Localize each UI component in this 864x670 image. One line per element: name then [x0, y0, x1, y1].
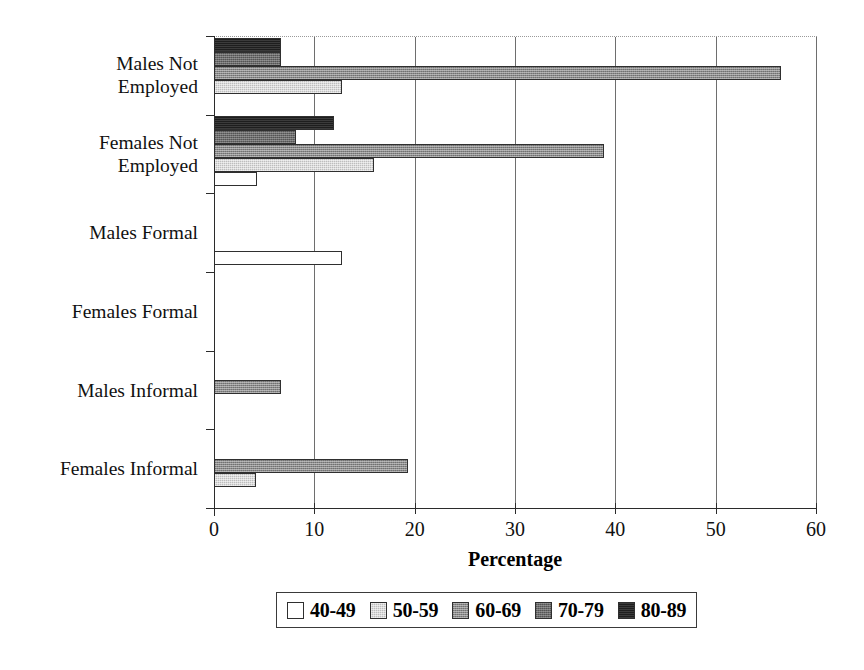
y-tick-6: [206, 508, 215, 509]
x-tick-label-40: 40: [585, 518, 645, 541]
chart-legend: 40-4950-5960-6970-7980-89: [276, 592, 697, 628]
y-tick-0: [206, 36, 215, 37]
bar: [214, 52, 281, 66]
bar: [214, 66, 781, 80]
legend-label: 60-69: [475, 599, 521, 622]
x-axis-title: Percentage: [214, 548, 816, 571]
legend-label: 80-89: [641, 599, 687, 622]
y-tick-5: [206, 429, 215, 430]
category-label-line: Employed: [18, 154, 198, 177]
category-label-line: Males Informal: [18, 379, 198, 402]
legend-swatch-icon-60-69: [452, 602, 469, 619]
bar: [214, 172, 257, 186]
x-tick-label-20: 20: [385, 518, 445, 541]
x-tick-label-0: 0: [184, 518, 244, 541]
y-axis-line: [214, 36, 215, 516]
legend-label: 40-49: [310, 599, 356, 622]
legend-swatch-icon-80-89: [618, 602, 635, 619]
bar: [214, 38, 281, 52]
bar: [214, 380, 281, 394]
x-tick-label-60: 60: [786, 518, 846, 541]
bar: [214, 251, 342, 265]
gridline-x-30: [515, 37, 516, 509]
category-label-line: Males Formal: [18, 221, 198, 244]
bar: [214, 80, 342, 94]
category-axis-labels: Males NotEmployedFemales NotEmployedMale…: [18, 36, 206, 508]
legend-swatch-icon-40-49: [287, 602, 304, 619]
x-tick-60: [816, 503, 817, 514]
category-label-line: Females Not: [18, 131, 198, 154]
y-tick-3: [206, 272, 215, 273]
bar-chart: Males NotEmployedFemales NotEmployedMale…: [0, 0, 864, 670]
category-label-males-not-employed: Males NotEmployed: [18, 52, 198, 98]
x-tick-40: [615, 503, 616, 514]
legend-label: 50-59: [393, 599, 439, 622]
plot-area: [214, 36, 817, 509]
legend-item-40-49: 40-49: [287, 599, 356, 622]
legend-item-80-89: 80-89: [618, 599, 687, 622]
gridline-x-40: [615, 37, 616, 509]
bar: [214, 116, 334, 130]
gridline-x-60: [816, 37, 817, 509]
gridline-x-50: [716, 37, 717, 509]
category-label-line: Males Not: [18, 52, 198, 75]
legend-label: 70-79: [558, 599, 604, 622]
gridline-x-20: [415, 37, 416, 509]
category-label-females-formal: Females Formal: [18, 300, 198, 323]
bar: [214, 459, 408, 473]
gridline-x-10: [314, 37, 315, 509]
bar: [214, 130, 296, 144]
legend-item-70-79: 70-79: [535, 599, 604, 622]
x-tick-20: [415, 503, 416, 514]
x-tick-30: [515, 503, 516, 514]
y-tick-1: [206, 115, 215, 116]
x-tick-10: [314, 503, 315, 514]
category-label-females-informal: Females Informal: [18, 457, 198, 480]
y-tick-4: [206, 351, 215, 352]
category-label-males-informal: Males Informal: [18, 379, 198, 402]
legend-swatch-icon-70-79: [535, 602, 552, 619]
x-tick-label-30: 30: [485, 518, 545, 541]
x-tick-label-10: 10: [284, 518, 344, 541]
y-tick-2: [206, 193, 215, 194]
category-label-males-formal: Males Formal: [18, 221, 198, 244]
category-label-line: Females Formal: [18, 300, 198, 323]
bar: [214, 473, 256, 487]
bar: [214, 158, 374, 172]
x-tick-50: [716, 503, 717, 514]
legend-item-60-69: 60-69: [452, 599, 521, 622]
category-label-females-not-employed: Females NotEmployed: [18, 131, 198, 177]
legend-swatch-icon-50-59: [370, 602, 387, 619]
category-label-line: Females Informal: [18, 457, 198, 480]
legend-item-50-59: 50-59: [370, 599, 439, 622]
x-tick-label-50: 50: [686, 518, 746, 541]
bar: [214, 144, 604, 158]
category-label-line: Employed: [18, 75, 198, 98]
